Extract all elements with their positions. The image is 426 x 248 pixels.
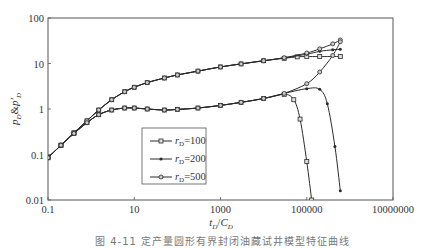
x-tick-label: 10 <box>129 204 140 215</box>
x-tick-label: 100000 <box>291 204 323 215</box>
y-tick-label: 1 <box>39 104 44 115</box>
y-tick-label: 100 <box>28 13 44 24</box>
y-tick-label: 0.1 <box>31 150 44 161</box>
y-tick-label: 10 <box>34 59 45 70</box>
svg-text:pD&p'D: pD&p'D <box>8 93 23 126</box>
y-axis-title: pD&p'D <box>8 93 23 126</box>
figure-caption: 图 4-11 定产量圆形有界封闭油藏试井模型特征曲线 <box>95 233 350 248</box>
x-axis-title: tD/CD <box>209 216 233 231</box>
x-tick-label: 0.1 <box>41 204 54 215</box>
svg-text:tD/CD: tD/CD <box>209 216 233 231</box>
x-tick-label: 10000000 <box>372 204 414 215</box>
legend: rD=100 rD=200 rD=500 <box>142 128 206 184</box>
y-axis: 1001010.10.01 <box>26 13 51 206</box>
x-tick-label: 1000 <box>210 204 231 215</box>
